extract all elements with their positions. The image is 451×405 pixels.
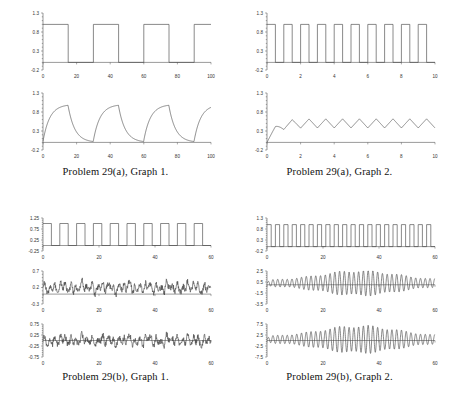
- x-tick-label: 40: [376, 308, 382, 313]
- panel-plot-stack: 020406080100-0.20.30.81.3020406080100-0.…: [6, 8, 225, 166]
- x-tick-label: 0: [42, 74, 45, 79]
- data-series: [267, 225, 435, 247]
- data-series: [43, 331, 211, 348]
- x-tick-label: 60: [208, 255, 214, 260]
- y-tick-label: 1.3: [33, 91, 40, 96]
- y-tick-label: 0.8: [33, 110, 40, 115]
- y-tick-label: 1.3: [33, 11, 40, 16]
- y-tick-label: -1.5: [255, 291, 263, 296]
- y-tick-label: -0.2: [31, 68, 39, 73]
- y-tick-label: -0.75: [29, 355, 40, 360]
- square-input-29a-2: 0246810-0.20.30.81.3: [237, 8, 442, 80]
- x-tick-label: 2: [299, 74, 302, 79]
- y-tick-label: 0.3: [257, 49, 264, 54]
- x-tick-label: 4: [333, 74, 336, 79]
- y-tick-label: -0.2: [255, 249, 263, 254]
- x-tick-label: 20: [96, 308, 102, 313]
- x-tick-label: 8: [400, 74, 403, 79]
- x-tick-label: 0: [42, 154, 45, 159]
- square-input-29b-2: 0204060-0.20.30.81.3: [237, 213, 442, 261]
- x-tick-label: 40: [376, 361, 382, 366]
- panel-plot-stack: 0204060-0.20.30.81.30204060-3.5-1.50.52.…: [230, 213, 449, 371]
- square-input-29a-1: 020406080100-0.20.30.81.3: [13, 8, 218, 80]
- y-tick-label: -0.25: [29, 249, 40, 254]
- plot-svg: 0204060-0.20.30.81.3: [237, 213, 442, 261]
- x-tick-label: 20: [74, 74, 80, 79]
- y-tick-label: 0.3: [33, 49, 40, 54]
- x-tick-label: 0: [42, 308, 45, 313]
- x-tick-label: 60: [141, 154, 147, 159]
- x-tick-label: 20: [320, 255, 326, 260]
- x-tick-label: 100: [207, 154, 215, 159]
- data-series: [267, 119, 435, 143]
- y-tick-label: 1.3: [257, 91, 264, 96]
- data-series: [267, 24, 435, 62]
- x-tick-label: 0: [42, 361, 45, 366]
- x-tick-label: 40: [152, 361, 158, 366]
- x-tick-label: 0: [266, 74, 269, 79]
- x-tick-label: 0: [266, 308, 269, 313]
- y-tick-label: 0.75: [30, 227, 39, 232]
- panel-plot-stack: 0204060-0.250.250.751.250204060-0.30.20.…: [6, 213, 225, 371]
- data-series: [43, 24, 211, 62]
- y-tick-label: 0.3: [257, 129, 264, 134]
- beating-output-29b-2-lower: 0204060-7.5-2.52.57.5: [237, 319, 442, 367]
- x-tick-label: 10: [432, 74, 438, 79]
- y-tick-label: 0.75: [30, 322, 39, 327]
- x-tick-label: 0: [266, 255, 269, 260]
- y-tick-label: 2.5: [257, 269, 264, 274]
- noisy-output-29b-1-upper: 0204060-0.30.20.7: [13, 266, 218, 314]
- y-tick-label: 0.8: [257, 110, 264, 115]
- data-series: [267, 271, 435, 296]
- x-tick-label: 60: [432, 255, 438, 260]
- plot-svg: 0204060-0.75-0.250.250.75: [13, 319, 218, 367]
- y-tick-label: 1.3: [257, 216, 264, 221]
- panel-caption: Problem 29(a), Graph 1.: [6, 166, 225, 177]
- x-tick-label: 40: [152, 255, 158, 260]
- y-tick-label: 0.8: [257, 227, 264, 232]
- x-tick-label: 20: [74, 154, 80, 159]
- x-tick-label: 60: [141, 74, 147, 79]
- y-tick-label: 0.25: [30, 333, 39, 338]
- plot-svg: 020406080100-0.20.30.81.3: [13, 8, 218, 80]
- y-tick-label: -0.2: [255, 68, 263, 73]
- y-tick-label: 0.3: [257, 238, 264, 243]
- x-tick-label: 0: [42, 255, 45, 260]
- plot-svg: 0204060-0.250.250.751.25: [13, 213, 218, 261]
- x-tick-label: 40: [152, 308, 158, 313]
- y-tick-label: 0.3: [33, 129, 40, 134]
- x-tick-label: 60: [432, 361, 438, 366]
- plot-svg: 0246810-0.20.30.81.3: [237, 8, 442, 80]
- y-tick-label: 0.8: [33, 30, 40, 35]
- y-tick-label: 1.3: [257, 11, 264, 16]
- figure-panel-29b-graph-1: 0204060-0.250.250.751.250204060-0.30.20.…: [6, 213, 225, 382]
- plot-svg: 020406080100-0.20.30.81.3: [13, 88, 218, 160]
- plot-svg: 0246810-0.20.30.81.3: [237, 88, 442, 160]
- square-input-29b-1: 0204060-0.250.250.751.25: [13, 213, 218, 261]
- x-tick-label: 20: [96, 361, 102, 366]
- x-tick-label: 100: [207, 74, 215, 79]
- plot-svg: 0204060-7.5-2.52.57.5: [237, 319, 442, 367]
- figure-panel-29a-graph-2: 0246810-0.20.30.81.30246810-0.20.30.81.3…: [230, 8, 449, 177]
- y-tick-label: -0.25: [29, 344, 40, 349]
- figure-panel-29a-graph-1: 020406080100-0.20.30.81.3020406080100-0.…: [6, 8, 225, 177]
- x-tick-label: 2: [299, 154, 302, 159]
- panel-caption: Problem 29(a), Graph 2.: [230, 166, 449, 177]
- x-tick-label: 0: [266, 361, 269, 366]
- y-tick-label: 0.2: [33, 285, 40, 290]
- x-tick-label: 6: [367, 154, 370, 159]
- x-tick-label: 20: [320, 361, 326, 366]
- x-tick-label: 40: [108, 154, 114, 159]
- y-tick-label: -0.3: [31, 302, 39, 307]
- plot-svg: 0204060-0.30.20.7: [13, 266, 218, 314]
- y-tick-label: 2.5: [257, 333, 264, 338]
- x-tick-label: 60: [432, 308, 438, 313]
- x-tick-label: 6: [367, 74, 370, 79]
- y-tick-label: 1.25: [30, 216, 39, 221]
- y-tick-label: -0.2: [255, 148, 263, 153]
- filtered-output-29a-1: 020406080100-0.20.30.81.3: [13, 88, 218, 160]
- noisy-output-29b-1-lower: 0204060-0.75-0.250.250.75: [13, 319, 218, 367]
- data-series: [43, 224, 211, 246]
- figure-panel-29b-graph-2: 0204060-0.20.30.81.30204060-3.5-1.50.52.…: [230, 213, 449, 382]
- y-tick-label: 7.5: [257, 322, 264, 327]
